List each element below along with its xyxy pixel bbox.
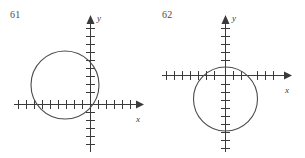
x-axis-label-61: x: [135, 114, 140, 124]
x-axis-61: x: [14, 100, 144, 124]
y-axis-label-61: y: [96, 13, 101, 23]
figure-61: 61: [0, 0, 152, 158]
y-axis-label-62: y: [231, 13, 236, 23]
coordinate-plane-62: x: [152, 0, 304, 158]
x-axis-62: x: [162, 71, 292, 95]
x-axis-label-62: x: [284, 85, 289, 95]
worksheet-page: 61: [0, 0, 305, 158]
figure-62: 62 x: [152, 0, 304, 158]
coordinate-plane-61: x: [0, 0, 152, 158]
